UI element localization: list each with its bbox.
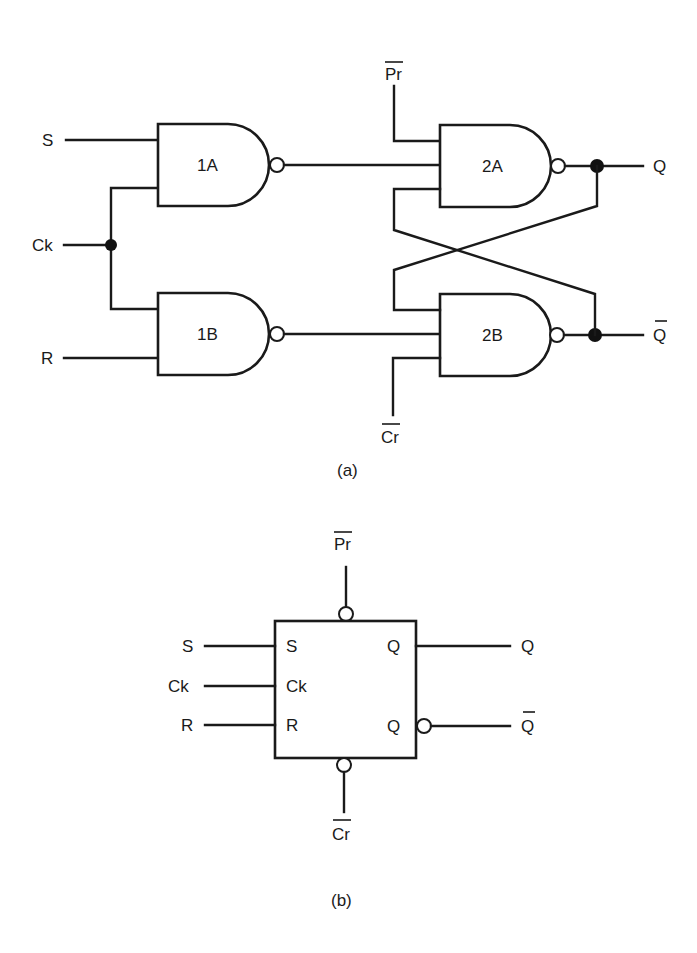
caption-a: (a) [337, 461, 358, 480]
input-label-r: R [41, 349, 53, 368]
caption-b: (b) [331, 891, 352, 910]
pin-label-ck: Ck [286, 677, 307, 696]
inversion-bubble-2a [551, 159, 565, 173]
output-label-q: Q [653, 157, 666, 176]
junction-dot-ck [105, 239, 117, 251]
input-label-cr-b: Cr [332, 825, 350, 844]
flip-flop-diagram: S Ck R 1A 1B Pr 2A 2B [0, 0, 697, 953]
input-label-s: S [42, 131, 53, 150]
input-label-ck: Ck [32, 236, 53, 255]
wire-pr [394, 86, 440, 141]
inversion-bubble-2b [550, 328, 564, 342]
gate-label-2a: 2A [482, 157, 503, 176]
inversion-bubble-qbar-b [417, 719, 431, 733]
gate-label-1b: 1B [197, 325, 218, 344]
wire-ck-split [111, 188, 158, 309]
pin-label-qbar: Q [387, 717, 400, 736]
input-label-cr: Cr [381, 428, 399, 447]
pin-label-s: S [286, 637, 297, 656]
input-label-s-b: S [182, 637, 193, 656]
part-b-block-symbol: Pr S Ck R S Ck R Q Q Q Q Cr (b) [168, 532, 535, 910]
input-label-pr: Pr [385, 65, 402, 84]
output-label-q-b: Q [521, 637, 534, 656]
input-label-r-b: R [181, 716, 193, 735]
output-label-qbar: Q [653, 326, 666, 345]
inversion-bubble-1a [270, 158, 284, 172]
input-label-pr-b: Pr [334, 535, 351, 554]
inversion-bubble-cr-b [337, 758, 351, 772]
wire-cr [393, 358, 440, 415]
output-label-qbar-b: Q [521, 717, 534, 736]
inversion-bubble-1b [270, 327, 284, 341]
inversion-bubble-pr-b [339, 607, 353, 621]
gate-label-1a: 1A [197, 156, 218, 175]
pin-label-r: R [286, 716, 298, 735]
gate-label-2b: 2B [482, 326, 503, 345]
pin-label-q: Q [387, 637, 400, 656]
part-a-logic-diagram: S Ck R 1A 1B Pr 2A 2B [32, 62, 667, 480]
input-label-ck-b: Ck [168, 677, 189, 696]
